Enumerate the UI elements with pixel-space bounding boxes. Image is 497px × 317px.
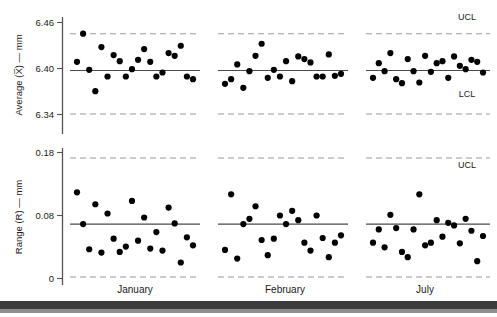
footer-bar — [0, 301, 497, 309]
data-point — [165, 50, 171, 56]
xbar-data-points — [74, 31, 486, 95]
data-point — [92, 201, 98, 207]
data-point — [295, 217, 301, 223]
data-point — [265, 252, 271, 258]
data-point — [141, 214, 147, 220]
data-point — [480, 233, 486, 239]
data-point — [474, 258, 480, 264]
data-point — [468, 57, 474, 63]
data-point — [295, 53, 301, 59]
data-point — [165, 204, 171, 210]
data-point — [111, 52, 117, 58]
data-point — [338, 232, 344, 238]
data-point — [301, 56, 307, 62]
xbar-ytick-label-2: 6.34 — [36, 109, 55, 120]
data-point — [190, 76, 196, 82]
data-point — [307, 59, 313, 65]
period-label-july: July — [416, 284, 434, 295]
data-point — [393, 225, 399, 231]
data-point — [92, 88, 98, 94]
data-point — [80, 31, 86, 37]
chart-canvas: 6.46 6.40 6.34 Average (X̅) — mm UCL LCL… — [0, 0, 497, 317]
data-point — [98, 249, 104, 255]
data-point — [246, 68, 252, 74]
footer-bar-shadow — [0, 309, 497, 313]
data-point — [410, 68, 416, 74]
data-point — [457, 240, 463, 246]
data-point — [416, 191, 422, 197]
control-chart-figure: 6.46 6.40 6.34 Average (X̅) — mm UCL LCL… — [0, 0, 497, 317]
data-point — [117, 249, 123, 255]
data-point — [320, 235, 326, 241]
data-point — [184, 234, 190, 240]
data-point — [434, 60, 440, 66]
data-point — [320, 73, 326, 79]
data-point — [283, 58, 289, 64]
data-point — [332, 73, 338, 79]
data-point — [457, 63, 463, 69]
range-ucl-label: UCL — [458, 160, 476, 170]
data-point — [104, 73, 110, 79]
data-point — [277, 212, 283, 218]
data-point — [399, 80, 405, 86]
data-point — [252, 203, 258, 209]
data-point — [190, 242, 196, 248]
data-point — [277, 73, 283, 79]
data-point — [222, 247, 228, 253]
xbar-ucl-label: UCL — [458, 12, 476, 22]
data-point — [104, 210, 110, 216]
data-point — [159, 247, 165, 253]
data-point — [252, 53, 258, 59]
data-point — [405, 56, 411, 62]
data-point — [117, 58, 123, 64]
data-point — [178, 43, 184, 49]
data-point — [439, 58, 445, 64]
data-point — [259, 237, 265, 243]
data-point — [410, 226, 416, 232]
data-point — [98, 44, 104, 50]
data-point — [399, 249, 405, 255]
data-point — [463, 66, 469, 72]
data-point — [387, 50, 393, 56]
data-point — [172, 53, 178, 59]
data-point — [159, 69, 165, 75]
data-point — [376, 226, 382, 232]
data-point — [86, 246, 92, 252]
data-point — [381, 244, 387, 250]
range-data-points — [74, 189, 486, 265]
data-point — [416, 79, 422, 85]
data-point — [271, 67, 277, 73]
data-point — [393, 76, 399, 82]
xbar-lcl-label: LCL — [459, 89, 476, 99]
data-point — [338, 71, 344, 77]
data-point — [271, 236, 277, 242]
data-point — [301, 240, 307, 246]
data-point — [111, 236, 117, 242]
data-point — [135, 57, 141, 63]
data-point — [129, 66, 135, 72]
data-point — [326, 254, 332, 260]
data-point — [234, 255, 240, 261]
period-label-february: February — [265, 284, 305, 295]
data-point — [451, 53, 457, 59]
data-point — [422, 242, 428, 248]
data-point — [153, 73, 159, 79]
period-label-january: January — [117, 284, 153, 295]
data-point — [80, 221, 86, 227]
range-ytick-label-2: 0 — [49, 273, 54, 284]
data-point — [474, 59, 480, 65]
xbar-y-axis-title: Average (X̅) — mm — [13, 34, 24, 115]
data-point — [74, 59, 80, 65]
data-point — [184, 73, 190, 79]
range-chart-group: 0.18 0.08 0 Range (R) — mm UCL — [13, 147, 490, 285]
data-point — [332, 240, 338, 246]
data-point — [129, 198, 135, 204]
data-point — [153, 229, 159, 235]
data-point — [228, 76, 234, 82]
data-point — [289, 78, 295, 84]
data-point — [74, 189, 80, 195]
range-y-axis-title: Range (R) — mm — [13, 180, 24, 255]
data-point — [439, 234, 445, 240]
xbar-chart-group: 6.46 6.40 6.34 Average (X̅) — mm UCL LCL — [13, 12, 490, 134]
xbar-ytick-label-0: 6.46 — [36, 17, 55, 28]
